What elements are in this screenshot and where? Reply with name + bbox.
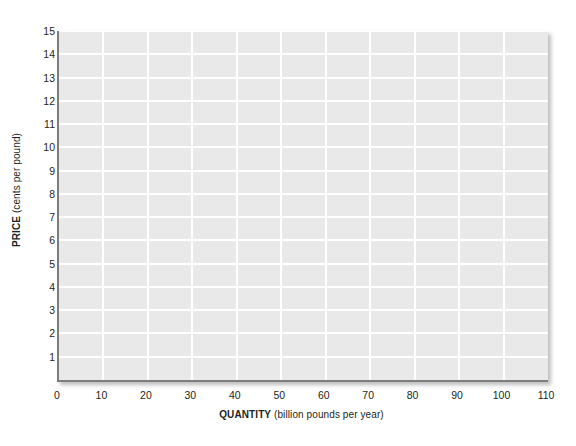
x-axis-title-strong: QUANTITY	[219, 409, 271, 420]
grid-line-horizontal	[59, 286, 548, 288]
grid-line-horizontal	[59, 31, 548, 32]
grid-line-vertical	[503, 31, 505, 380]
y-axis-tick-label: 11	[34, 119, 55, 130]
y-axis-tick-label: 7	[34, 212, 55, 223]
grid-line-vertical	[325, 31, 327, 380]
y-axis-tick-label: 13	[34, 72, 55, 83]
grid-line-horizontal	[59, 356, 548, 358]
grid-line-vertical	[369, 31, 371, 380]
x-axis-tick-label: 40	[215, 389, 255, 402]
x-axis-tick-label: 20	[126, 389, 166, 402]
plot-area	[57, 31, 548, 382]
grid-line-horizontal	[59, 170, 548, 172]
grid-line-horizontal	[59, 309, 548, 311]
price-quantity-grid-chart: PRICE (cents per pound) 1234567891011121…	[0, 0, 576, 446]
y-axis-title: PRICE (cents per pound)	[0, 0, 34, 380]
grid-line-horizontal	[59, 53, 548, 55]
x-axis-tick-label: 70	[348, 389, 388, 402]
grid-line-horizontal	[59, 263, 548, 265]
y-axis-tick-label: 5	[34, 258, 55, 269]
y-axis-tick-label: 9	[34, 165, 55, 176]
y-axis-tick-label: 15	[34, 26, 55, 37]
y-axis-tick-label: 3	[34, 305, 55, 316]
y-axis-title-strong: PRICE	[11, 216, 22, 247]
grid-line-horizontal	[59, 216, 548, 218]
grid-line-vertical	[147, 31, 149, 380]
grid-line-horizontal	[59, 193, 548, 195]
grid-line-vertical	[458, 31, 460, 380]
grid-line-horizontal	[59, 239, 548, 241]
x-axis-tick-label: 100	[482, 389, 522, 402]
x-axis-tick-label: 0	[37, 389, 77, 402]
x-axis-tick-label: 50	[259, 389, 299, 402]
x-axis-tick-label: 110	[526, 389, 566, 402]
grid-line-vertical	[280, 31, 282, 380]
grid-line-horizontal	[59, 146, 548, 148]
y-axis-tick-label: 12	[34, 95, 55, 106]
grid-line-vertical	[414, 31, 416, 380]
grid-line-horizontal	[59, 100, 548, 102]
x-axis-tick-labels: 0102030405060708090100110	[0, 389, 576, 405]
y-axis-tick-label: 1	[34, 351, 55, 362]
y-axis-title-weak: (cents per pound)	[11, 133, 22, 216]
x-axis-title: QUANTITY (billion pounds per year)	[57, 409, 546, 421]
y-axis-tick-label: 2	[34, 328, 55, 339]
y-axis-tick-label: 4	[34, 281, 55, 292]
grid-lines	[59, 31, 548, 380]
y-axis-tick-label: 10	[34, 142, 55, 153]
y-axis-tick-label: 14	[34, 49, 55, 60]
x-axis-tick-label: 30	[170, 389, 210, 402]
grid-line-vertical	[102, 31, 104, 380]
x-axis-tick-label: 60	[304, 389, 344, 402]
y-axis-tick-labels: 123456789101112131415	[34, 0, 55, 400]
y-axis-tick-label: 8	[34, 188, 55, 199]
x-axis-tick-label: 80	[393, 389, 433, 402]
grid-line-horizontal	[59, 332, 548, 334]
x-axis-tick-label: 90	[437, 389, 477, 402]
grid-line-vertical	[191, 31, 193, 380]
grid-line-horizontal	[59, 123, 548, 125]
grid-line-vertical	[236, 31, 238, 380]
grid-line-horizontal	[59, 77, 548, 79]
y-axis-tick-label: 6	[34, 235, 55, 246]
x-axis-tick-label: 10	[81, 389, 121, 402]
x-axis-title-weak: (billion pounds per year)	[271, 409, 384, 420]
